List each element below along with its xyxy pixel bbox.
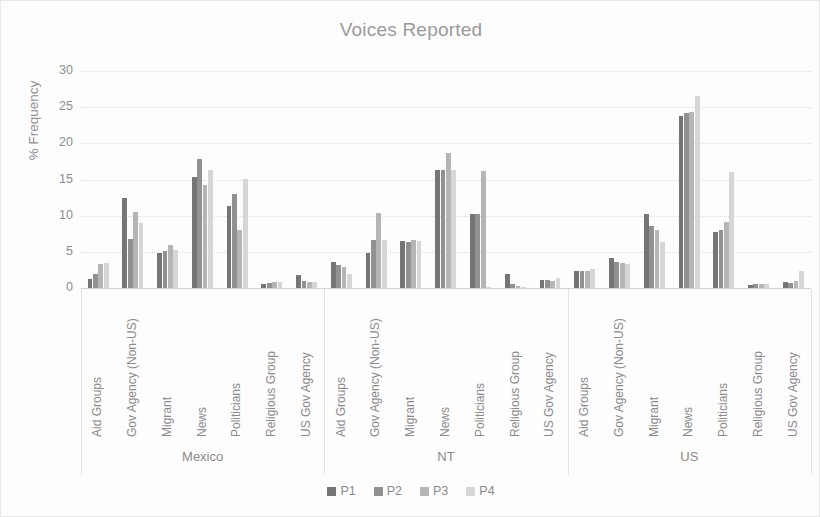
bar — [719, 230, 724, 288]
bar — [296, 275, 301, 288]
bar — [232, 194, 237, 288]
bar — [759, 284, 764, 288]
bar — [302, 281, 307, 288]
bar — [540, 280, 545, 288]
category-label: Migrant — [648, 397, 660, 437]
bar — [451, 170, 456, 288]
bar — [192, 177, 197, 288]
bar — [168, 245, 173, 288]
category-label: News — [439, 407, 451, 437]
bar — [272, 282, 277, 288]
bar — [197, 159, 202, 288]
bar — [470, 214, 475, 288]
bar — [446, 153, 451, 288]
legend-label: P1 — [340, 484, 355, 498]
group-axis-labels: MexicoNTUS — [81, 439, 811, 475]
bar — [98, 264, 103, 288]
bar — [441, 170, 446, 288]
category-label: Aid Groups — [91, 377, 103, 437]
group-separator — [324, 289, 325, 439]
category-label: Religious Group — [752, 351, 764, 437]
bar — [689, 112, 694, 288]
axis-border-left — [81, 289, 82, 439]
category-label: US Gov Agency — [543, 352, 555, 437]
category-label: US Gov Agency — [787, 352, 799, 437]
bar — [133, 212, 138, 288]
legend-item-p2[interactable]: P2 — [374, 484, 402, 498]
bar — [227, 206, 232, 288]
y-tick-label: 20 — [43, 136, 73, 149]
bar — [625, 264, 630, 288]
bar — [88, 279, 93, 288]
category-label: Politicians — [474, 383, 486, 437]
category-label: Politicians — [717, 383, 729, 437]
y-tick-label: 30 — [43, 64, 73, 77]
bar — [574, 271, 579, 288]
bar — [400, 241, 405, 288]
group-label-us: US — [568, 449, 811, 464]
gridline — [81, 143, 811, 144]
y-tick-label: 5 — [43, 245, 73, 258]
legend-swatch-icon — [466, 487, 475, 496]
bar — [157, 253, 162, 288]
category-axis-labels: Aid GroupsGov Agency (Non-US)MigrantNews… — [81, 289, 811, 439]
bar — [336, 265, 341, 288]
legend-label: P2 — [387, 484, 402, 498]
group-label-mexico: Mexico — [81, 449, 324, 464]
bar — [128, 239, 133, 288]
bar — [695, 96, 700, 288]
y-tick-label: 0 — [43, 281, 73, 294]
bar — [342, 267, 347, 288]
legend-label: P4 — [479, 484, 494, 498]
category-label: Gov Agency (Non-US) — [126, 318, 138, 437]
bar — [590, 269, 595, 288]
bar — [312, 282, 317, 289]
bar — [486, 287, 491, 288]
bar — [764, 284, 769, 288]
bar — [406, 242, 411, 288]
bar — [729, 172, 734, 288]
bar — [481, 171, 486, 288]
chart-title: Voices Reported — [1, 19, 820, 41]
category-label: Aid Groups — [335, 377, 347, 437]
chart-container: Voices Reported % Frequency 051015202530… — [0, 0, 820, 517]
bar — [783, 282, 788, 288]
bar — [521, 287, 526, 288]
bar — [376, 213, 381, 288]
category-label: Religious Group — [265, 351, 277, 437]
legend-label: P3 — [433, 484, 448, 498]
category-label: Gov Agency (Non-US) — [613, 318, 625, 437]
bar — [660, 242, 665, 288]
bar — [371, 240, 376, 288]
category-label: Migrant — [161, 397, 173, 437]
category-label: Religious Group — [509, 351, 521, 437]
category-label: US Gov Agency — [300, 352, 312, 437]
legend-item-p4[interactable]: P4 — [466, 484, 494, 498]
bar — [505, 274, 510, 288]
bar — [163, 251, 168, 288]
bar — [208, 170, 213, 288]
bar — [203, 185, 208, 288]
bar — [411, 240, 416, 288]
gridline — [81, 107, 811, 108]
bar — [173, 250, 178, 288]
bar — [122, 198, 127, 288]
bar — [417, 241, 422, 288]
group-label-nt: NT — [324, 449, 567, 464]
bar — [475, 214, 480, 288]
group-separator — [568, 289, 569, 439]
legend-item-p1[interactable]: P1 — [327, 484, 355, 498]
y-tick-label: 10 — [43, 209, 73, 222]
legend-item-p3[interactable]: P3 — [420, 484, 448, 498]
bar — [644, 214, 649, 289]
chart-legend: P1P2P3P4 — [1, 483, 820, 498]
y-tick-label: 25 — [43, 100, 73, 113]
legend-swatch-icon — [374, 487, 383, 496]
bar — [510, 284, 515, 288]
bar — [243, 179, 248, 288]
gridline — [81, 71, 811, 72]
category-label: Politicians — [230, 383, 242, 437]
bar — [347, 274, 352, 288]
category-label: Migrant — [404, 397, 416, 437]
bar — [753, 284, 758, 288]
